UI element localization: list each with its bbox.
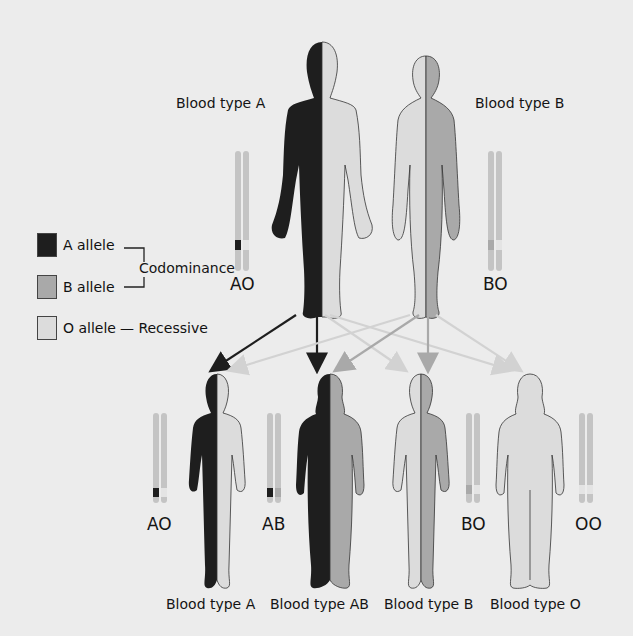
child-o-label: Blood type O bbox=[490, 596, 581, 612]
child-a-label: Blood type A bbox=[166, 596, 255, 612]
child-a-genotype: AO bbox=[147, 514, 172, 534]
b-allele-label: B allele bbox=[63, 279, 115, 295]
mother-figure bbox=[392, 56, 460, 318]
mother-chromosome-pair bbox=[488, 151, 502, 271]
codominance-label: Codominance bbox=[139, 260, 235, 276]
inheritance-arrows bbox=[212, 315, 520, 370]
father-figure bbox=[272, 42, 373, 318]
child-b-figure bbox=[393, 374, 449, 588]
legend-b-allele: B allele bbox=[37, 275, 115, 299]
child-o-chromosome-pair bbox=[579, 413, 593, 503]
child-a-figure bbox=[189, 374, 245, 588]
child-o-genotype: OO bbox=[575, 514, 602, 534]
child-ab-chromosome-pair bbox=[267, 413, 281, 503]
o-allele-swatch bbox=[37, 316, 57, 340]
child-ab-label: Blood type AB bbox=[270, 596, 369, 612]
b-allele-swatch bbox=[37, 275, 57, 299]
a-allele-label: A allele bbox=[63, 237, 115, 253]
a-allele-swatch bbox=[37, 233, 57, 257]
father-chromosome-pair bbox=[235, 151, 249, 271]
child-a-chromosome-pair bbox=[153, 413, 167, 503]
father-blood-type-label: Blood type A bbox=[176, 95, 265, 111]
child-ab-genotype: AB bbox=[262, 514, 285, 534]
mother-blood-type-label: Blood type B bbox=[475, 95, 564, 111]
father-genotype: AO bbox=[230, 274, 255, 294]
child-o-figure bbox=[496, 374, 564, 588]
recessive-label: — Recessive bbox=[120, 320, 208, 336]
child-ab-figure bbox=[296, 374, 364, 588]
child-b-label: Blood type B bbox=[384, 596, 473, 612]
legend-a-allele: A allele bbox=[37, 233, 115, 257]
mother-genotype: BO bbox=[483, 274, 508, 294]
legend-o-allele: O allele — Recessive bbox=[37, 316, 208, 340]
child-b-chromosome-pair bbox=[466, 413, 480, 503]
child-b-genotype: BO bbox=[461, 514, 486, 534]
o-allele-label: O allele bbox=[63, 320, 116, 336]
